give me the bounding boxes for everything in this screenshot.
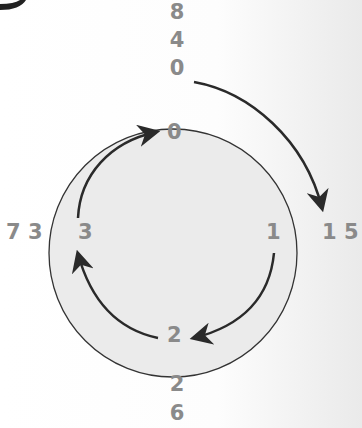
outer-label-bottom: 2 6 [166, 374, 188, 424]
node-3: 3 [78, 222, 93, 243]
node-2: 2 [167, 325, 182, 346]
outer-bottom-6: 6 [166, 403, 188, 424]
corner-glyph-fragment [0, 0, 26, 10]
outer-bottom-2: 2 [166, 374, 188, 395]
node-0: 0 [167, 122, 182, 143]
outer-top-4: 4 [166, 30, 188, 51]
node-1: 1 [266, 222, 281, 243]
outer-label-top: 8 4 0 [166, 2, 188, 79]
outer-label-left: 7 3 [6, 222, 43, 243]
outer-top-8: 8 [166, 2, 188, 23]
outer-label-right: 1 5 [322, 222, 359, 243]
outer-top-0: 0 [166, 58, 188, 79]
